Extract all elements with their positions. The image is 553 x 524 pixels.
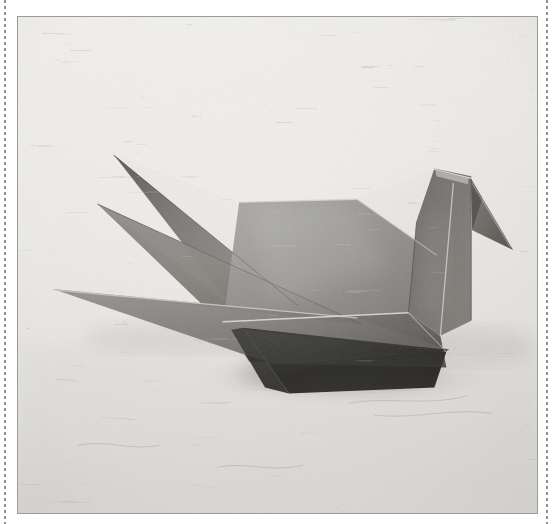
dashed-rule-left-icon <box>4 0 6 524</box>
crane-neck-sheen <box>418 212 450 316</box>
photograph-frame: Black and white photograph of a folded p… <box>17 16 538 514</box>
screenshot-root: Black and white photograph of a folded p… <box>0 0 553 524</box>
origami-crane-photograph <box>18 17 537 513</box>
dashed-rule-right-icon <box>546 0 548 524</box>
